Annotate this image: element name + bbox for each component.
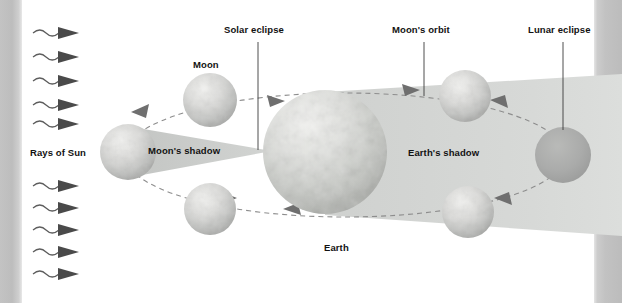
label-moon: Moon xyxy=(193,60,219,70)
diagram-canvas xyxy=(0,0,622,303)
moon-full-eclipsed xyxy=(535,127,591,183)
moon-bottom-left xyxy=(184,183,236,235)
label-moons-orbit: Moon's orbit xyxy=(392,25,450,35)
label-earths-shadow: Earth's shadow xyxy=(408,148,479,158)
moon-top-left xyxy=(183,73,237,127)
earth-sphere xyxy=(263,90,387,214)
label-lunar-eclipse: Lunar eclipse xyxy=(528,25,591,35)
moon-top-right xyxy=(439,70,491,122)
label-moons-shadow: Moon's shadow xyxy=(148,146,220,156)
label-rays-of-sun: Rays of Sun xyxy=(30,148,86,158)
label-earth: Earth xyxy=(324,243,349,253)
moon-bottom-right xyxy=(442,186,494,238)
eclipse-diagram: Rays of Sun Moon Moon's shadow Solar ecl… xyxy=(0,0,622,303)
label-solar-eclipse: Solar eclipse xyxy=(224,25,284,35)
